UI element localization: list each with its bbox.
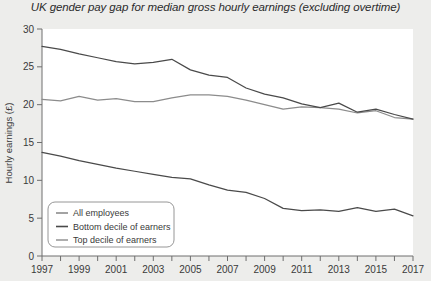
line-chart: 051015202530 199719992001200320052007200… [0,0,431,281]
legend-label-2[interactable]: Bottom decile of earners [73,222,171,232]
y-tick-label: 0 [28,251,34,262]
y-tick-label: 25 [23,61,35,72]
y-axis-label: Hourly earnings (£) [3,103,14,184]
y-axis-ticks: 051015202530 [23,24,42,262]
x-axis-ticks: 1997199920012003200520072009201120132015… [31,256,425,275]
y-tick-label: 10 [23,175,35,186]
x-tick-label: 2015 [365,264,388,275]
x-tick-label: 2005 [179,264,202,275]
x-tick-label: 2011 [291,264,313,275]
y-tick-label: 15 [23,137,35,148]
y-tick-label: 30 [23,24,35,35]
chart-legend[interactable]: All employeesBottom decile of earnersTop… [48,202,174,247]
y-tick-label: 20 [23,99,35,110]
x-tick-label: 2009 [253,264,276,275]
legend-label-1[interactable]: All employees [73,208,130,218]
x-tick-label: 2013 [328,264,351,275]
x-tick-label: 2001 [105,264,128,275]
x-tick-label: 1999 [68,264,91,275]
x-tick-label: 2003 [142,264,165,275]
x-tick-label: 2007 [216,264,239,275]
x-tick-label: 1997 [31,264,54,275]
chart-container: UK gender pay gap for median gross hourl… [0,0,431,281]
legend-label-3[interactable]: Top decile of earners [73,235,157,245]
x-tick-label: 2017 [402,264,425,275]
y-tick-label: 5 [28,213,34,224]
